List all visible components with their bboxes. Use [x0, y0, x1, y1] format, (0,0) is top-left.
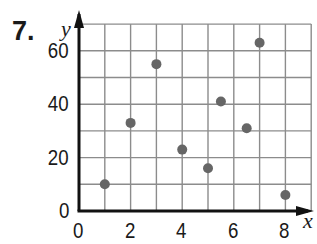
x-tick-label: 4 [176, 218, 186, 244]
scatter-plot [0, 0, 317, 244]
data-point [203, 163, 213, 173]
y-tick-label: 20 [48, 145, 69, 171]
x-tick-label: 2 [125, 218, 135, 244]
data-point [151, 59, 161, 69]
x-tick-label: 8 [279, 218, 289, 244]
data-point [126, 118, 136, 128]
y-tick-label: 40 [48, 91, 69, 117]
y-axis-arrow-icon [74, 10, 84, 28]
data-point [177, 145, 187, 155]
data-point [280, 190, 290, 200]
data-points [100, 38, 291, 200]
data-point [216, 97, 226, 107]
problem-number: 7. [12, 16, 35, 47]
x-axis-label: x [303, 208, 313, 234]
data-point [255, 38, 265, 48]
data-point [100, 179, 110, 189]
x-tick-label: 6 [228, 218, 238, 244]
y-tick-label: 0 [59, 198, 69, 224]
data-point [242, 123, 252, 133]
x-tick-label: 0 [73, 218, 83, 244]
grid-lines [79, 24, 311, 211]
y-axis-label: y [61, 16, 71, 42]
axes [74, 10, 314, 216]
